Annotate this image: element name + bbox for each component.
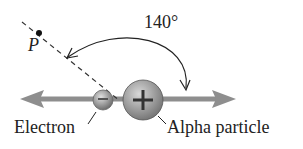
- point-label: P: [28, 35, 39, 56]
- angle-label: 140°: [144, 12, 178, 33]
- angle-arc: [68, 38, 186, 88]
- electron-leader: [88, 112, 96, 124]
- alpha-leader: [158, 116, 166, 124]
- electron-label: Electron: [14, 117, 75, 138]
- alpha-particle-label: Alpha particle: [167, 117, 269, 138]
